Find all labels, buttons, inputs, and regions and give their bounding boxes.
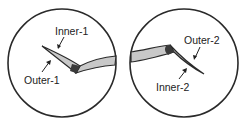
label-inner-2: Inner-2 [156, 81, 189, 93]
label-inner-1: Inner-1 [55, 25, 88, 37]
instrument-diagram: Inner-1 Outer-1 Outer-2 Inner-2 [0, 0, 244, 126]
label-outer-2: Outer-2 [184, 34, 220, 46]
panel-2: Outer-2 Inner-2 [130, 9, 238, 117]
panel-1: Inner-1 Outer-1 [8, 9, 116, 117]
label-outer-1: Outer-1 [24, 74, 60, 86]
magnifier-circle-2 [130, 9, 238, 117]
